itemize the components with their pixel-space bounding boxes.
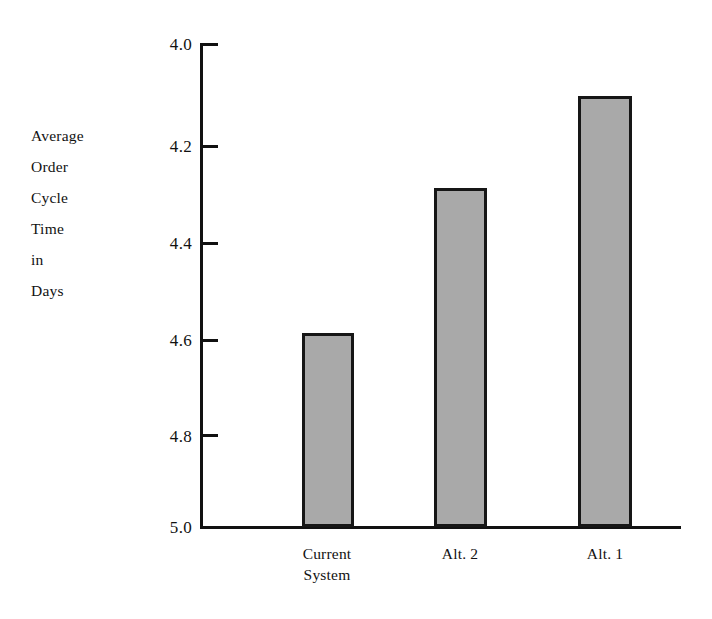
y-tick-label-4-4: 4.4 xyxy=(138,235,192,252)
bar-chart: Average Order Cycle Time in Days 4.0 4.2… xyxy=(0,0,712,619)
bar-alt-1[interactable] xyxy=(578,96,632,527)
y-tick-mark-4-8 xyxy=(203,434,218,437)
y-axis-title-line-4: Time xyxy=(31,213,141,244)
y-tick-label-4-2: 4.2 xyxy=(138,138,192,155)
y-axis-title-line-6: Days xyxy=(31,275,141,306)
bar-current-system[interactable] xyxy=(302,333,354,527)
y-tick-label-4-8: 4.8 xyxy=(138,428,192,445)
y-axis-title-line-2: Order xyxy=(31,151,141,182)
y-tick-mark-4-2 xyxy=(203,145,218,148)
y-tick-label-4-6: 4.6 xyxy=(138,332,192,349)
y-axis-title-line-1: Average xyxy=(31,120,141,151)
y-tick-mark-4-0 xyxy=(203,43,218,46)
y-tick-label-5-0: 5.0 xyxy=(138,519,192,536)
x-tick-label-alt-1: Alt. 1 xyxy=(520,543,690,564)
x-tick-label-alt-1-line-1: Alt. 1 xyxy=(520,543,690,564)
bar-alt-2[interactable] xyxy=(434,188,487,527)
y-axis-title-line-5: in xyxy=(31,244,141,275)
y-tick-label-4-0: 4.0 xyxy=(138,36,192,53)
y-tick-mark-4-4 xyxy=(203,242,218,245)
y-tick-mark-4-6 xyxy=(203,339,218,342)
y-axis-title: Average Order Cycle Time in Days xyxy=(31,120,141,306)
x-tick-label-current-system-line-2: System xyxy=(242,564,412,585)
y-axis-title-line-3: Cycle xyxy=(31,182,141,213)
y-axis-line xyxy=(200,43,203,529)
